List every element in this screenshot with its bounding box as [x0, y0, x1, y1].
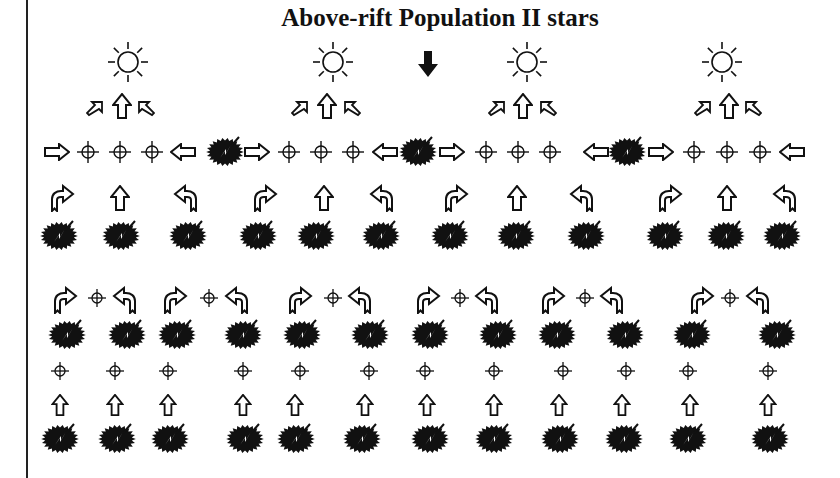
down-arrow-icon	[416, 50, 440, 78]
curved-left-arrow-icon	[599, 286, 625, 314]
up-arrow-icon	[234, 394, 252, 416]
curved-right-arrow-icon	[443, 184, 469, 212]
explosion-burst-icon	[410, 319, 450, 351]
crosshair-icon	[140, 140, 164, 164]
explosion-burst-icon	[750, 423, 790, 455]
diagonal-up-right-arrow-icon	[694, 99, 712, 117]
right-arrow-icon	[44, 143, 70, 161]
diagonal-up-right-arrow-icon	[488, 99, 506, 117]
explosion-burst-icon	[276, 423, 316, 455]
explosion-burst-icon	[496, 220, 536, 252]
explosion-burst-icon	[645, 220, 685, 252]
up-arrow-icon	[485, 394, 503, 416]
crosshair-icon	[76, 140, 100, 164]
explosion-burst-icon	[282, 319, 322, 351]
explosion-burst-icon	[410, 423, 450, 455]
up-arrow-icon	[759, 394, 777, 416]
crosshair-icon	[553, 361, 573, 381]
crosshair-icon	[715, 140, 739, 164]
explosion-burst-icon	[672, 319, 712, 351]
crosshair-icon	[616, 361, 636, 381]
explosion-burst-icon	[762, 220, 802, 252]
diagonal-up-left-arrow-icon	[539, 99, 557, 117]
crosshair-icon	[474, 140, 498, 164]
crosshair-icon	[105, 361, 125, 381]
crosshair-icon	[538, 140, 562, 164]
up-arrow-icon	[550, 394, 568, 416]
curved-right-arrow-icon	[689, 286, 715, 314]
explosion-burst-icon	[350, 319, 390, 351]
explosion-burst-icon	[225, 423, 265, 455]
sun-icon	[700, 40, 744, 84]
explosion-burst-icon	[540, 423, 580, 455]
curved-left-arrow-icon	[369, 184, 395, 212]
crosshair-icon	[87, 288, 107, 308]
explosion-burst-icon	[706, 220, 746, 252]
explosion-burst-icon	[205, 136, 245, 168]
explosion-burst-icon	[296, 220, 336, 252]
crosshair-icon	[506, 140, 530, 164]
curved-right-arrow-icon	[415, 286, 441, 314]
crosshair-icon	[277, 140, 301, 164]
crosshair-icon	[359, 361, 379, 381]
curved-right-arrow-icon	[162, 286, 188, 314]
crosshair-icon	[758, 361, 778, 381]
crosshair-icon	[309, 140, 333, 164]
curved-right-arrow-icon	[287, 286, 313, 314]
sun-icon	[311, 40, 355, 84]
diagonal-up-right-arrow-icon	[291, 99, 309, 117]
crosshair-icon	[108, 140, 132, 164]
up-arrow-icon	[51, 394, 69, 416]
up-arrow-icon	[317, 93, 337, 119]
curved-left-arrow-icon	[745, 286, 771, 314]
crosshair-icon	[323, 288, 343, 308]
diagonal-up-right-arrow-icon	[86, 99, 104, 117]
up-arrow-icon	[106, 394, 124, 416]
curved-left-arrow-icon	[474, 286, 500, 314]
right-arrow-icon	[648, 143, 674, 161]
up-arrow-icon	[613, 394, 631, 416]
explosion-burst-icon	[97, 423, 137, 455]
up-arrow-icon	[717, 185, 737, 211]
crosshair-icon	[720, 288, 740, 308]
crosshair-icon	[682, 140, 706, 164]
up-arrow-icon	[159, 394, 177, 416]
crosshair-icon	[50, 361, 70, 381]
right-arrow-icon	[244, 143, 270, 161]
up-arrow-icon	[314, 185, 334, 211]
crosshair-icon	[158, 361, 178, 381]
left-arrow-icon	[583, 143, 609, 161]
explosion-burst-icon	[47, 319, 87, 351]
explosion-burst-icon	[238, 220, 278, 252]
explosion-burst-icon	[101, 220, 141, 252]
crosshair-icon	[415, 361, 435, 381]
crosshair-icon	[484, 361, 504, 381]
explosion-burst-icon	[157, 319, 197, 351]
explosion-burst-icon	[607, 136, 647, 168]
up-arrow-icon	[356, 394, 374, 416]
explosion-burst-icon	[398, 136, 438, 168]
explosion-burst-icon	[107, 319, 147, 351]
explosion-burst-icon	[474, 423, 514, 455]
diagonal-up-left-arrow-icon	[343, 99, 361, 117]
up-arrow-icon	[112, 93, 132, 119]
explosion-burst-icon	[342, 423, 382, 455]
explosion-burst-icon	[478, 319, 518, 351]
curved-left-arrow-icon	[772, 184, 798, 212]
curved-left-arrow-icon	[347, 286, 373, 314]
left-arrow-icon	[779, 143, 805, 161]
curved-left-arrow-icon	[224, 286, 250, 314]
sun-icon	[106, 40, 150, 84]
crosshair-icon	[575, 288, 595, 308]
explosion-burst-icon	[668, 423, 708, 455]
left-border-line	[26, 0, 28, 478]
up-arrow-icon	[507, 185, 527, 211]
explosion-burst-icon	[223, 319, 263, 351]
up-arrow-icon	[513, 93, 533, 119]
up-arrow-icon	[681, 394, 699, 416]
curved-left-arrow-icon	[569, 184, 595, 212]
left-arrow-icon	[372, 143, 398, 161]
explosion-burst-icon	[40, 423, 80, 455]
curved-right-arrow-icon	[52, 286, 78, 314]
explosion-burst-icon	[150, 423, 190, 455]
